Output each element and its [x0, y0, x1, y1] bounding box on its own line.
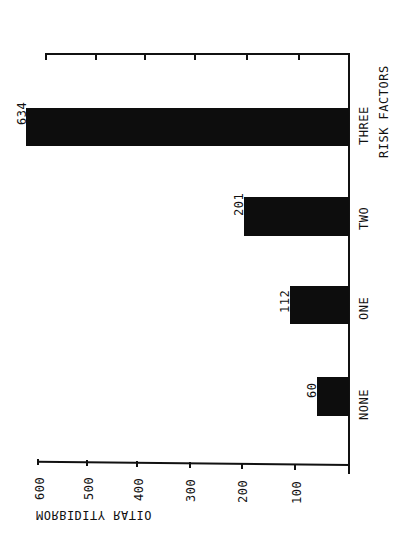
tick-600: [37, 459, 39, 465]
data-label-60: 60: [306, 383, 318, 398]
top-tick-400: [144, 54, 146, 60]
data-label-201: 201: [233, 193, 245, 216]
tick-label-200: 200: [237, 480, 249, 503]
category-label-two: TWO: [358, 207, 370, 230]
category-label-one: ONE: [358, 297, 370, 320]
axis-title-morbidity-ratio: MORBIDITY RATIO: [36, 508, 152, 522]
data-label-634: 634: [16, 102, 28, 125]
top-tick-300: [194, 54, 196, 60]
top-tick-200: [246, 54, 248, 60]
category-label-three: THREE: [358, 106, 370, 145]
top-tick-500: [95, 54, 97, 60]
bar-none: [317, 377, 349, 416]
top-tick-100: [298, 54, 300, 60]
top-tick-600: [45, 54, 47, 60]
tick-label-400: 400: [133, 478, 145, 501]
bar-two: [244, 197, 349, 236]
tick-300: [189, 462, 191, 468]
tick-500: [86, 460, 88, 466]
bar-one: [290, 286, 349, 324]
category-label-none: NONE: [358, 389, 370, 420]
tick-label-100: 100: [291, 481, 303, 504]
category-label-risk-factors: RISK FACTORS: [378, 65, 390, 158]
tick-400: [136, 461, 138, 467]
bar-three: [26, 108, 349, 146]
data-label-112: 112: [279, 290, 291, 313]
tick-label-500: 500: [83, 477, 95, 500]
tick-200: [241, 463, 243, 469]
tick-label-600: 600: [34, 477, 46, 500]
tick-100: [294, 464, 296, 470]
tick-label-300: 300: [185, 479, 197, 502]
value-axis: [37, 461, 350, 466]
top-value-axis: [45, 53, 350, 55]
